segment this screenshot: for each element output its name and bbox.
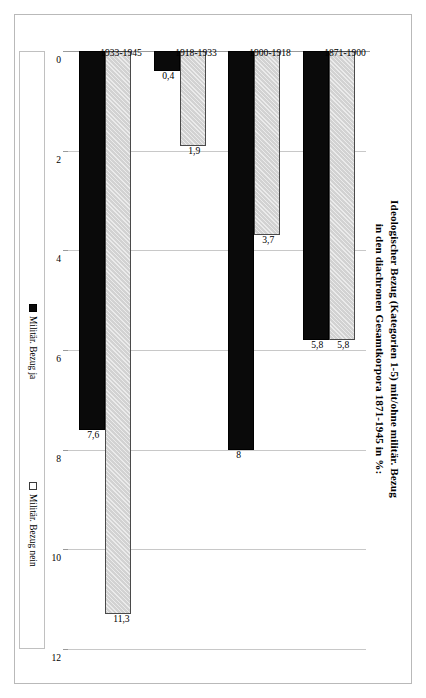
- bar-group: 11,37,6: [79, 51, 131, 649]
- tick-mark: [63, 250, 68, 251]
- chart-title: Ideologischer Bezug (Kategorien 1-5) mit…: [373, 15, 411, 683]
- gridline: [68, 649, 366, 650]
- bar-value-label: 1,9: [188, 146, 200, 156]
- tick-mark: [63, 350, 68, 351]
- bar-value-label: 3,7: [262, 236, 274, 246]
- legend-label: Militär. Bezug nein: [28, 494, 38, 567]
- bar-militaer-bezug-ja: [79, 51, 105, 430]
- bar-value-label: 11,3: [113, 614, 129, 624]
- tick-mark: [63, 151, 68, 152]
- chart-title-line1: Ideologischer Bezug (Kategorien 1-5) mit…: [389, 200, 401, 498]
- legend-item: Militär. Bezug nein: [28, 482, 38, 567]
- chart-legend: Militär. Bezug jaMilitär. Bezug nein: [19, 51, 45, 649]
- legend-label: Militär. Bezug ja: [28, 316, 38, 379]
- bar-militaer-bezug-ja: [228, 51, 254, 450]
- legend-swatch-nein: [29, 482, 37, 490]
- tick-mark: [63, 649, 68, 650]
- tick-label: 12: [51, 653, 61, 663]
- category-label: 1933-1945: [100, 48, 142, 58]
- category-label: 1900-1918: [249, 48, 291, 58]
- bar-militaer-bezug-nein: [180, 51, 206, 146]
- bar-value-label: 5,8: [311, 340, 323, 350]
- tick-mark: [63, 549, 68, 550]
- bar-militaer-bezug-nein: [329, 51, 355, 340]
- bar-militaer-bezug-nein: [254, 51, 280, 235]
- plot-area: 5,85,83,781,90,411,37,6: [68, 51, 366, 649]
- tick-label: 6: [56, 354, 61, 364]
- tick-label: 2: [56, 155, 61, 165]
- tick-mark: [63, 51, 68, 52]
- bar-group: 3,78: [228, 51, 280, 649]
- bar-value-label: 7,6: [87, 430, 99, 440]
- bar-militaer-bezug-nein: [105, 51, 131, 614]
- tick-label: 4: [56, 254, 61, 264]
- bar-value-label: 8: [236, 450, 241, 460]
- bar-militaer-bezug-ja: [303, 51, 329, 340]
- bar-group: 1,90,4: [154, 51, 206, 649]
- tick-label: 0: [56, 55, 61, 65]
- category-label: 1871-1900: [324, 48, 366, 58]
- bar-group: 5,85,8: [303, 51, 355, 649]
- plot-canvas: 5,85,83,781,90,411,37,6: [68, 51, 366, 649]
- tick-label: 10: [51, 553, 61, 563]
- chart-stage: Ideologischer Bezug (Kategorien 1-5) mit…: [15, 15, 411, 683]
- bar-value-label: 5,8: [337, 340, 349, 350]
- tick-label: 8: [56, 454, 61, 464]
- chart-title-line2: in den diachronen Gesamtkorpora 1871-194…: [373, 15, 388, 683]
- figure-root: Ideologischer Bezug (Kategorien 1-5) mit…: [0, 0, 426, 698]
- legend-item: Militär. Bezug ja: [28, 304, 38, 379]
- bar-value-label: 0,4: [162, 71, 174, 81]
- tick-mark: [63, 450, 68, 451]
- category-label: 1918-1933: [175, 48, 217, 58]
- legend-swatch-ja: [29, 304, 37, 312]
